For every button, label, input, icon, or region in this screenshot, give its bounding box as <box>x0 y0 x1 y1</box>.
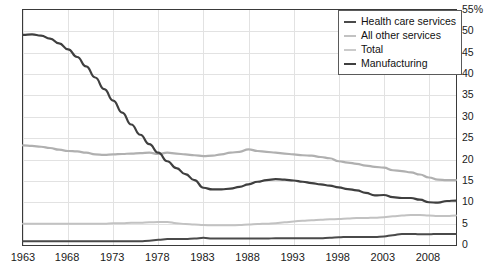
legend-item: All other services <box>344 29 456 42</box>
x-axis-tick-label: 1963 <box>11 252 35 263</box>
y-axis-tick-label: 35 <box>462 89 474 100</box>
legend-swatch-line-icon <box>344 21 356 23</box>
legend-item: Manufacturing <box>344 57 456 70</box>
x-axis-tick-label: 1983 <box>190 252 214 263</box>
y-axis-tick-label: 40 <box>462 68 474 79</box>
y-axis-tick-label: 5 <box>462 217 468 228</box>
x-axis-tick-label: 1988 <box>235 252 259 263</box>
y-axis-tick-label: 0 <box>462 239 468 250</box>
legend-swatch-line-icon <box>344 49 356 51</box>
y-axis-tick-label: 25 <box>462 132 474 143</box>
x-axis-tick-label: 1978 <box>145 252 169 263</box>
legend-item-label: Health care services <box>361 16 456 27</box>
y-axis-tick-label: 10 <box>462 196 474 207</box>
y-axis-tick-label: 20 <box>462 153 474 164</box>
y-axis-tick-label: 55% <box>462 4 483 15</box>
line-chart: Health care servicesAll other servicesTo… <box>0 0 504 276</box>
x-axis-tick-label: 2008 <box>416 252 440 263</box>
y-axis-tick-label: 45 <box>462 46 474 57</box>
x-axis-tick-label: 1973 <box>100 252 124 263</box>
x-axis-tick-label: 1968 <box>55 252 79 263</box>
x-axis-tick-label: 1998 <box>325 252 349 263</box>
x-axis-tick-label: 2003 <box>371 252 395 263</box>
y-axis-tick-label: 50 <box>462 25 474 36</box>
legend-item-label: Total <box>361 44 383 55</box>
series-line <box>23 234 456 241</box>
x-axis-tick-label: 1993 <box>280 252 304 263</box>
legend-swatch-line-icon <box>344 35 356 37</box>
series-line <box>23 145 456 180</box>
legend-item-label: Manufacturing <box>361 58 428 69</box>
legend-item: Health care services <box>344 15 456 28</box>
y-axis-tick-label: 15 <box>462 175 474 186</box>
legend-item-label: All other services <box>361 30 441 41</box>
legend-item: Total <box>344 43 456 56</box>
legend: Health care servicesAll other servicesTo… <box>338 10 462 75</box>
series-line <box>23 215 456 225</box>
legend-swatch-line-icon <box>344 63 356 65</box>
cropped-title-fragment <box>0 0 504 5</box>
y-axis-tick-label: 30 <box>462 111 474 122</box>
